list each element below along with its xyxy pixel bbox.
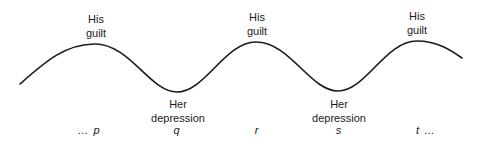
- axis-point-q: q: [173, 124, 180, 136]
- peak-label-3-line1: His: [407, 9, 427, 23]
- peak-label-1: His guilt: [86, 12, 106, 40]
- trough-label-1: Her depression: [151, 97, 205, 125]
- peak-label-3: His guilt: [407, 9, 427, 37]
- peak-label-2-line1: His: [247, 10, 267, 24]
- axis-point-t: t …: [416, 124, 436, 136]
- trough-label-1-line2: depression: [151, 111, 205, 125]
- peak-label-1-line1: His: [86, 12, 106, 26]
- peak-label-3-line2: guilt: [407, 23, 427, 37]
- axis-point-s: s: [336, 124, 343, 136]
- trough-label-1-line1: Her: [151, 97, 205, 111]
- wave-curve: [0, 0, 477, 148]
- axis-point-r: r: [255, 124, 260, 136]
- trough-label-2: Her depression: [312, 97, 366, 125]
- axis-point-p: … p: [77, 124, 100, 136]
- peak-label-2: His guilt: [247, 10, 267, 38]
- peak-label-2-line2: guilt: [247, 24, 267, 38]
- trough-label-2-line1: Her: [312, 97, 366, 111]
- peak-label-1-line2: guilt: [86, 26, 106, 40]
- trough-label-2-line2: depression: [312, 111, 366, 125]
